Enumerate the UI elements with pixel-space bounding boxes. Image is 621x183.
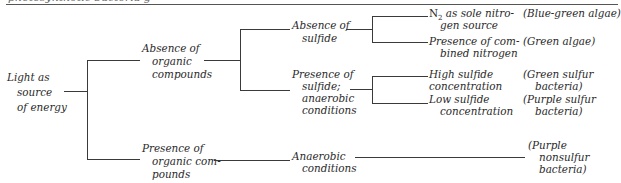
connector-to-presence-organic <box>87 159 140 160</box>
connector-presence-organic <box>214 160 290 161</box>
combined-line-1: Presence of com- <box>429 36 519 47</box>
high-sulfide-line-2: concentration <box>429 81 502 92</box>
high-sulfide-line-1: High sulfide <box>429 69 493 80</box>
connector-absence-sulfide-vertical <box>372 16 373 42</box>
connector-to-combined <box>372 42 428 43</box>
anaerobic-line-1: Anaerobic <box>292 151 346 162</box>
green-sulfur-line-2: bacteria) <box>535 81 583 92</box>
presence-sulfide-line-4: conditions <box>302 105 357 116</box>
presence-sulfide-line-3: anaerobic <box>302 93 354 104</box>
low-sulfide-line-1: Low sulfide <box>429 94 489 105</box>
low-sulfide-line-2: concentration <box>440 106 513 117</box>
connector-absence-organic-vertical <box>240 29 241 90</box>
connector-to-absence-sulfide <box>240 29 290 30</box>
presence-organic-line-3: pounds <box>152 169 190 180</box>
header-fragment: photosynthetic bacteria g <box>8 0 151 4</box>
connector-anaerobic <box>355 157 525 158</box>
connector-absence-sulfide <box>346 29 372 30</box>
presence-sulfide-line-2: sulfide; <box>302 81 341 92</box>
header-rule <box>6 4 618 5</box>
root-line-2: source <box>17 87 52 98</box>
connector-absence-organic <box>204 60 240 61</box>
presence-organic-line-2: organic com- <box>152 156 221 167</box>
connector-presence-sulfide <box>350 89 372 90</box>
root-line-1: Light as <box>7 72 50 83</box>
purple-nonsulfur-line-1: (Purple <box>528 140 567 151</box>
organism-blue-green-algae: (Blue-green algae) <box>523 8 621 19</box>
n2-symbol: N <box>429 7 438 19</box>
purple-nonsulfur-line-3: bacteria) <box>539 164 587 175</box>
root-line-3: of energy <box>17 102 67 113</box>
connector-to-absence-organic <box>87 60 140 61</box>
connector-presence-sulfide-vertical <box>372 76 373 103</box>
purple-sulfur-line-2: bacteria) <box>535 106 583 117</box>
absence-organic-line-2: organic <box>152 56 192 67</box>
absence-sulfide-line-2: sulfide <box>302 33 337 44</box>
connector-to-presence-sulfide <box>240 90 290 91</box>
purple-nonsulfur-line-2: nonsulfur <box>539 152 590 163</box>
purple-sulfur-line-1: (Purple sulfur <box>523 94 596 105</box>
combined-line-2: bined nitrogen <box>440 48 518 59</box>
n2-line-2: gen source <box>440 20 498 31</box>
absence-organic-line-3: compounds <box>152 69 212 80</box>
absence-sulfide-line-1: Absence of <box>292 20 350 31</box>
connector-to-low-sulfide <box>372 103 428 104</box>
presence-sulfide-line-1: Presence of <box>292 69 354 80</box>
connector-to-n2 <box>372 16 428 17</box>
connector-to-high-sulfide <box>372 76 428 77</box>
connector-root <box>64 91 87 92</box>
green-sulfur-line-1: (Green sulfur <box>523 69 593 80</box>
presence-organic-line-1: Presence of <box>142 143 204 154</box>
connector-root-vertical <box>87 60 88 159</box>
n2-rest: as sole nitro- <box>443 7 514 19</box>
absence-organic-line-1: Absence of <box>142 43 200 54</box>
anaerobic-line-2: conditions <box>302 163 357 174</box>
organism-green-algae: (Green algae) <box>523 36 595 47</box>
